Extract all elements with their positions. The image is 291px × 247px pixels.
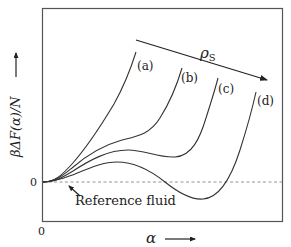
x-axis-label: α — [146, 229, 156, 247]
y-axis-label: βΔF(α)/N — [8, 53, 23, 158]
curve-d — [43, 92, 256, 199]
curve-b — [43, 68, 182, 182]
reference-fluid-label: Reference fluid — [75, 193, 176, 208]
rho-label: ρS — [199, 44, 216, 63]
curve-a-label: (a) — [137, 59, 154, 73]
x-zero-label: 0 — [38, 225, 45, 238]
curve-c-label: (c) — [218, 82, 234, 96]
curve-d-label: (d) — [257, 94, 274, 108]
plot-frame — [43, 9, 283, 222]
curve-b-label: (b) — [181, 71, 198, 85]
y-zero-label: 0 — [30, 176, 37, 189]
svg-text:βΔF(α)/N: βΔF(α)/N — [8, 96, 23, 158]
free-energy-diagram: ρS (a) (b) (c) (d) Reference fluid 0 0 β… — [0, 0, 291, 247]
